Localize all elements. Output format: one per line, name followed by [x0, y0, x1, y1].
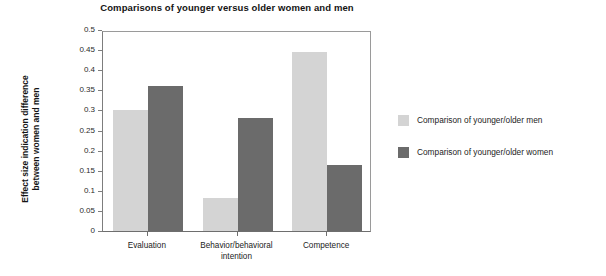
y-axis-title-line-2: between women and men	[31, 34, 42, 244]
chart-title-text: Comparisons of younger versus older wome…	[100, 2, 354, 13]
y-axis-tick-label: 0.35	[79, 85, 95, 94]
x-axis-category-label-line-1: Behavior/behavioral	[200, 241, 272, 250]
bar	[113, 110, 148, 231]
bar	[238, 118, 273, 231]
chart-title: Comparisons of younger versus older wome…	[62, 2, 392, 13]
y-axis-tick-mark	[98, 30, 102, 31]
y-axis-title-line-1: Effect size indication difference	[20, 75, 30, 203]
chart-figure: Comparisons of younger versus older wome…	[0, 0, 606, 276]
y-axis-tick-mark	[98, 110, 102, 111]
y-axis-title: Effect size indication difference betwee…	[20, 34, 42, 244]
y-axis-tick-mark	[98, 50, 102, 51]
bar	[292, 52, 327, 231]
y-axis-tick-mark	[98, 151, 102, 152]
x-axis-tick-mark	[237, 232, 238, 236]
y-axis-tick-mark	[98, 211, 102, 212]
x-axis-tick-mark	[326, 232, 327, 236]
chart-legend: Comparison of younger/older menCompariso…	[398, 104, 604, 168]
x-axis-category-label: Behavior/behavioralintention	[192, 241, 282, 262]
y-axis-tick-label: 0.5	[84, 25, 95, 34]
legend-item: Comparison of younger/older men	[398, 104, 604, 136]
y-axis-tick-mark	[98, 171, 102, 172]
y-axis-tick-label: 0.25	[79, 126, 95, 135]
y-axis-tick-mark	[98, 70, 102, 71]
y-axis-tick-label: 0.2	[84, 146, 95, 155]
y-axis-tick-label: 0.15	[79, 166, 95, 175]
y-axis-tick-label: 0.3	[84, 105, 95, 114]
y-axis-tick-mark	[98, 231, 102, 232]
bar	[327, 165, 362, 231]
x-axis-category-label-line-1: Competence	[303, 241, 349, 250]
x-axis-category-label-line-1: Evaluation	[128, 241, 166, 250]
legend-item: Comparison of younger/older women	[398, 136, 604, 168]
y-axis-tick-label: 0.05	[79, 206, 95, 215]
legend-label: Comparison of younger/older women	[417, 147, 553, 157]
y-axis-tick-label: 0.4	[84, 65, 95, 74]
y-axis-tick-label: 0	[91, 226, 95, 235]
x-axis-tick-mark	[147, 232, 148, 236]
bar	[148, 86, 183, 231]
y-axis-tick-label: 0.45	[79, 45, 95, 54]
y-axis-tick-label: 0.1	[84, 186, 95, 195]
y-axis-tick-mark	[98, 90, 102, 91]
x-axis-category-label: Evaluation	[102, 241, 192, 252]
y-axis-tick-mark	[98, 131, 102, 132]
bars-layer	[103, 32, 370, 231]
legend-label: Comparison of younger/older men	[417, 115, 542, 125]
x-axis-category-label-line-2: intention	[192, 252, 282, 263]
legend-swatch	[398, 115, 409, 126]
legend-swatch	[398, 147, 409, 158]
plot-area	[102, 31, 371, 232]
x-axis-category-label: Competence	[281, 241, 371, 252]
bar	[203, 198, 238, 231]
y-axis-tick-mark	[98, 191, 102, 192]
